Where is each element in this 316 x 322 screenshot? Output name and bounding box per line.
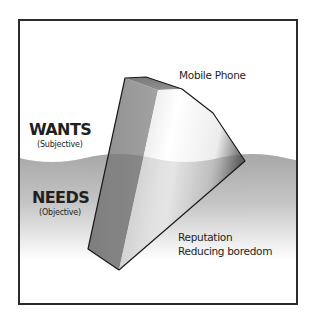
below-water-label-1: Reputation (178, 231, 232, 244)
wants-subtitle: (Subjective) (37, 140, 83, 149)
needs-title: NEEDS (32, 190, 89, 206)
needs-subtitle: (Objective) (39, 208, 81, 217)
iceberg-diagram (0, 0, 316, 322)
above-water-label: Mobile Phone (179, 69, 246, 82)
below-water-label-2: Reducing boredom (178, 245, 272, 258)
wants-title: WANTS (29, 122, 91, 138)
